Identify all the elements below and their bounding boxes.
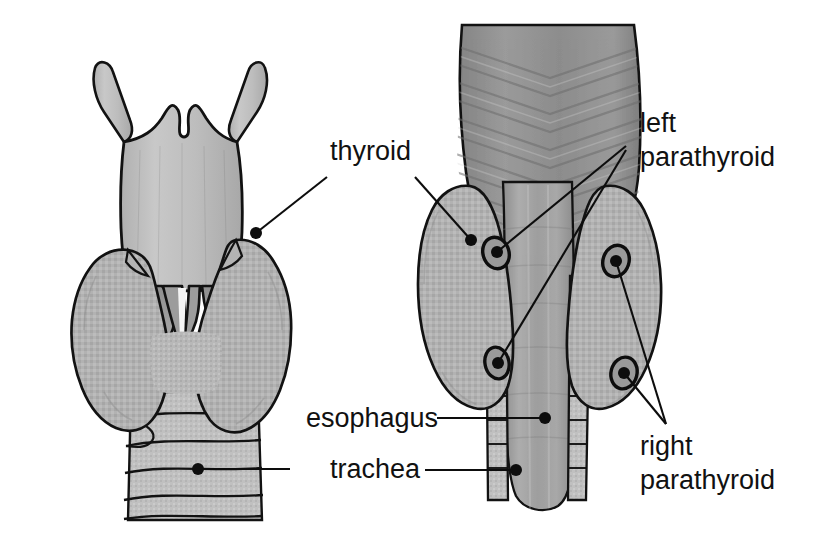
leader-thyroid-left <box>256 177 327 233</box>
label-esophagus: esophagus <box>306 403 438 433</box>
anchor-dot-right-sup-parathyroid <box>610 255 622 267</box>
anchor-dot-esophagus <box>539 412 551 424</box>
anchor-dot-left-inf-parathyroid <box>492 357 504 369</box>
anchor-dot-thyroid-left <box>250 227 262 239</box>
anatomical-diagram: thyroid left parathyroid right parathyro… <box>0 0 817 545</box>
right-superior-horn <box>229 62 267 142</box>
posterior-view-group <box>418 25 661 512</box>
leader-right-inf-parathyroid <box>624 373 666 424</box>
anterior-view-group <box>71 62 291 520</box>
anchor-dot-trachea-left <box>192 463 204 475</box>
label-trachea: trachea <box>330 454 421 484</box>
left-superior-horn <box>94 62 132 142</box>
anchor-dot-right-inf-parathyroid <box>618 367 630 379</box>
anchor-dot-thyroid-right <box>465 234 477 246</box>
anchor-dot-left-sup-parathyroid <box>491 246 503 258</box>
anchor-dot-trachea-right <box>510 464 522 476</box>
label-right-parathyroid-line1: right <box>640 431 693 461</box>
label-left-parathyroid-line2: parathyroid <box>640 142 775 172</box>
label-right-parathyroid-line2: parathyroid <box>640 465 775 495</box>
label-thyroid: thyroid <box>330 136 411 166</box>
thyroid-isthmus <box>150 332 222 395</box>
diagram-canvas: thyroid left parathyroid right parathyro… <box>0 0 817 545</box>
label-left-parathyroid-line1: left <box>640 108 677 138</box>
